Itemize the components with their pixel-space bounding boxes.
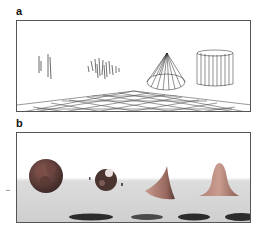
bell-mound-object: [199, 163, 239, 196]
sparse-strokes-object: [39, 54, 51, 79]
wireframe-cone-object: [147, 53, 185, 90]
shaded-scene-graphic: [17, 133, 251, 223]
cast-shadows: [69, 213, 251, 221]
bumpy-sphere-object: [29, 159, 63, 193]
scribbled-sphere-object: [88, 58, 119, 79]
panel-b-label: b: [16, 118, 23, 129]
panel-b-shaded-scene: [16, 132, 251, 223]
wireframe-cylinder-object: [197, 50, 233, 86]
curved-cone-object: [145, 166, 175, 199]
margin-mark: [6, 190, 10, 191]
panel-a-label: a: [16, 6, 22, 17]
panel-a-wireframe-scene: [16, 20, 251, 112]
perspective-grid-floor: [17, 91, 251, 112]
wireframe-scene-graphic: [17, 21, 251, 112]
fragmented-sphere-object: [89, 169, 123, 191]
